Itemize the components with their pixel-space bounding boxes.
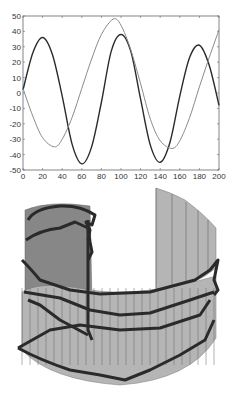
x-tick-label: 40	[58, 172, 67, 180]
y-tick-label: 0	[17, 89, 22, 98]
y-tick-label: 20	[12, 58, 21, 67]
x-tick-label: 200	[212, 172, 226, 180]
y-tick-label: 10	[12, 74, 21, 83]
x-tick-label: 180	[193, 172, 207, 180]
surface-back-panel	[156, 188, 216, 292]
y-tick-label: -10	[9, 104, 21, 113]
x-tick-label: 0	[21, 172, 26, 180]
cylinder-surface-plot	[0, 180, 238, 408]
y-tick-label: -50	[9, 166, 21, 175]
x-tick-label: 100	[114, 172, 128, 180]
y-tick-label: 40	[12, 27, 21, 36]
y-tick-label: -20	[9, 120, 21, 129]
x-tick-label: 140	[154, 172, 168, 180]
y-tick-label: 50	[12, 12, 21, 21]
y-tick-label: -30	[9, 135, 21, 144]
x-tick-label: 60	[77, 172, 86, 180]
x-tick-label: 80	[97, 172, 106, 180]
x-tick-label: 160	[173, 172, 187, 180]
y-tick-label: 30	[12, 43, 21, 52]
y-tick-label: -40	[9, 151, 21, 160]
line-chart: 50403020100-10-20-30-40-50 0204060801001…	[0, 0, 238, 180]
x-tick-label: 120	[134, 172, 148, 180]
x-tick-label: 20	[38, 172, 47, 180]
